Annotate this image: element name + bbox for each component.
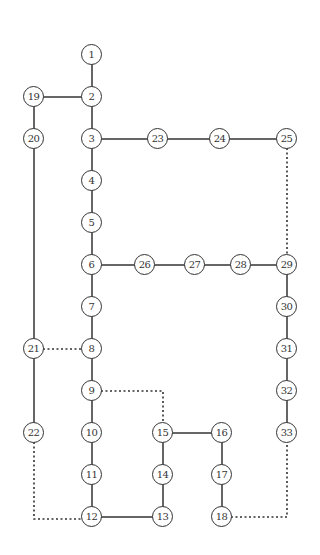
node-21: 21	[23, 338, 44, 359]
node-22: 22	[23, 422, 44, 443]
node-17: 17	[211, 464, 232, 485]
node-1: 1	[81, 44, 102, 65]
node-26: 26	[134, 254, 155, 275]
node-8: 8	[81, 338, 102, 359]
node-23: 23	[147, 128, 168, 149]
node-28: 28	[230, 254, 251, 275]
node-27: 27	[184, 254, 205, 275]
node-14: 14	[152, 464, 173, 485]
node-29: 29	[276, 254, 297, 275]
node-31: 31	[276, 338, 297, 359]
node-15: 15	[152, 422, 173, 443]
node-4: 4	[81, 170, 102, 191]
edge-layer	[34, 55, 287, 519]
node-11: 11	[81, 464, 102, 485]
node-12: 12	[81, 506, 102, 527]
node-18: 18	[211, 506, 232, 527]
node-32: 32	[276, 380, 297, 401]
node-7: 7	[81, 296, 102, 317]
node-25: 25	[276, 128, 297, 149]
node-20: 20	[23, 128, 44, 149]
node-13: 13	[152, 506, 173, 527]
node-19: 19	[23, 86, 44, 107]
node-2: 2	[81, 86, 102, 107]
node-9: 9	[81, 380, 102, 401]
node-3: 3	[81, 128, 102, 149]
node-6: 6	[81, 254, 102, 275]
node-30: 30	[276, 296, 297, 317]
node-24: 24	[209, 128, 230, 149]
node-33: 33	[276, 422, 297, 443]
node-5: 5	[81, 212, 102, 233]
node-16: 16	[211, 422, 232, 443]
node-10: 10	[81, 422, 102, 443]
